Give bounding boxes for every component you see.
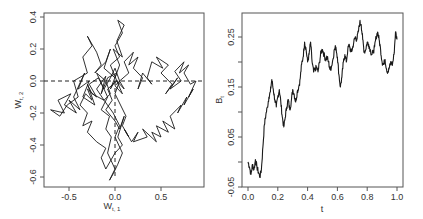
right-x-axis-label: t [321, 204, 324, 214]
left-y-axis: -0.6-0.4-0.20.00.20.4 [28, 11, 44, 185]
right-y-axis: -0.050.050.150.25 [226, 28, 242, 197]
x-tick-label: 0.8 [361, 192, 374, 202]
y-tick-label: -0.6 [28, 169, 38, 185]
x-tick-label: -0.5 [61, 192, 77, 202]
y-tick-label: 0.2 [28, 43, 38, 56]
x-tick-label: 1.0 [391, 192, 404, 202]
x-tick-label: 0.5 [155, 192, 168, 202]
right-y-axis-label: Bt [214, 96, 225, 104]
y-tick-label: 0.4 [28, 11, 38, 24]
y-tick-label: 0.05 [226, 128, 236, 146]
y-tick-label: 0.25 [226, 28, 236, 46]
x-tick-label: 0.6 [331, 192, 344, 202]
x-tick-label: 0.4 [301, 192, 314, 202]
left-x-axis: -0.50.00.5 [61, 187, 167, 202]
path-line [51, 20, 196, 180]
figure: -0.6-0.4-0.20.00.20.4 -0.50.00.5 Wt, 1 W… [0, 0, 423, 219]
y-tick-label: 0.0 [28, 75, 38, 88]
series-line [248, 20, 397, 177]
x-tick-label: 0.2 [272, 192, 285, 202]
left-plot-frame [44, 13, 204, 187]
left-x-axis-label: Wt, 1 [104, 201, 122, 212]
y-tick-label: -0.2 [28, 105, 38, 121]
y-tick-label: -0.05 [226, 177, 236, 198]
x-tick-label: 0.0 [242, 192, 255, 202]
right-plot-panel: -0.050.050.150.25 0.00.20.40.60.81.0 t B… [214, 13, 403, 214]
right-brownian-path [248, 20, 397, 177]
y-tick-label: 0.15 [226, 78, 236, 96]
y-tick-label: -0.4 [28, 137, 38, 153]
left-brownian-path [51, 20, 196, 180]
right-x-axis: 0.00.20.40.60.81.0 [242, 187, 404, 202]
left-plot-panel: -0.6-0.4-0.20.00.20.4 -0.50.00.5 Wt, 1 W… [13, 11, 204, 212]
left-y-axis-label: Wt, 2 [13, 91, 24, 109]
